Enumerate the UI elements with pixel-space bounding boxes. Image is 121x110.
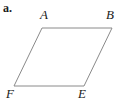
geometry-figure: a. A B E F <box>0 0 121 110</box>
vertex-label-b: B <box>106 8 114 21</box>
parallelogram-diagram <box>0 0 121 110</box>
vertex-label-f: F <box>6 87 14 100</box>
vertex-label-e: E <box>78 87 86 100</box>
parallelogram-shape <box>14 28 112 86</box>
vertex-label-a: A <box>40 8 48 21</box>
